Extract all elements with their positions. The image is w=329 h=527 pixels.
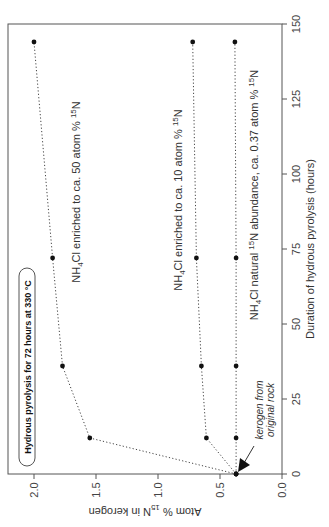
atom-axis-ticks: 0.00.51.01.52.0 bbox=[28, 474, 288, 498]
hours-tick-label: 25 bbox=[290, 393, 302, 405]
svg-text:kerogen from: kerogen from bbox=[254, 381, 265, 440]
arrow-line bbox=[244, 446, 254, 463]
svg-text:Hydrous pyrolysis for 72 hours: Hydrous pyrolysis for 72 hours at 330 °C bbox=[23, 280, 33, 454]
atom-tick-label: 1.5 bbox=[90, 482, 102, 497]
data-point bbox=[234, 256, 239, 261]
data-point bbox=[234, 472, 239, 477]
series-label-natural: NH4Cl natural 15N abundance, ca. 0.37 at… bbox=[247, 70, 263, 320]
svg-text:original rock: original rock bbox=[265, 382, 276, 437]
hours-tick-label: 100 bbox=[290, 165, 302, 183]
hours-axis-title: Duration of hydrous pyrolysis (hours) bbox=[304, 159, 316, 339]
series-label-50: NH4Cl enriched to ca. 50 atom % 15N bbox=[69, 101, 85, 283]
kerogen-annotation: kerogen from original rock bbox=[238, 381, 276, 472]
data-point bbox=[194, 256, 199, 261]
arrow-head-icon bbox=[238, 458, 250, 472]
data-point bbox=[234, 436, 239, 441]
data-point bbox=[204, 436, 209, 441]
pyrolysis-condition-annotation: Hydrous pyrolysis for 72 hours at 330 °C bbox=[19, 268, 35, 466]
atom-tick-label: 1.0 bbox=[152, 482, 164, 497]
data-point bbox=[199, 364, 204, 369]
atom-tick-label: 0.0 bbox=[276, 482, 288, 497]
hours-tick-label: 0 bbox=[290, 471, 302, 477]
data-point bbox=[233, 40, 238, 45]
series-line-0 bbox=[34, 42, 236, 474]
hours-axis-ticks: 0255075100125150 bbox=[282, 15, 302, 477]
data-point bbox=[87, 436, 92, 441]
chart: 0255075100125150 0.00.51.01.52.0 Duratio… bbox=[0, 0, 329, 527]
hours-tick-label: 150 bbox=[290, 15, 302, 33]
data-series bbox=[32, 40, 239, 477]
atom-tick-label: 0.5 bbox=[214, 482, 226, 497]
data-point bbox=[190, 40, 195, 45]
series-label-10: NH4Cl enriched to ca. 10 atom % 15N bbox=[171, 109, 187, 291]
plot-frame bbox=[8, 24, 282, 474]
data-point bbox=[50, 256, 55, 261]
hours-tick-label: 125 bbox=[290, 90, 302, 108]
hours-tick-label: 75 bbox=[290, 243, 302, 255]
atom-axis-title: Atom % 15N in kerogen bbox=[89, 503, 202, 518]
data-point bbox=[234, 364, 239, 369]
hours-tick-label: 50 bbox=[290, 318, 302, 330]
atom-tick-label: 2.0 bbox=[28, 482, 40, 497]
data-point bbox=[60, 364, 65, 369]
data-point bbox=[32, 40, 37, 45]
series-line-1 bbox=[193, 42, 236, 474]
